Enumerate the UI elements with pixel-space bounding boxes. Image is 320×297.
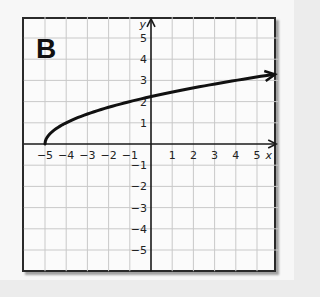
svg-text:4: 4 — [140, 53, 147, 66]
svg-text:−1: −1 — [131, 159, 147, 172]
svg-text:4: 4 — [232, 149, 239, 162]
svg-text:−4: −4 — [58, 149, 74, 162]
svg-text:−5: −5 — [131, 244, 147, 257]
svg-text:3: 3 — [211, 149, 218, 162]
tick-labels: −5−4−3−2−11234554321−1−2−3−4−5xy — [37, 18, 273, 257]
svg-text:−2: −2 — [100, 149, 116, 162]
svg-text:y: y — [138, 18, 146, 31]
axes — [24, 19, 276, 271]
svg-text:−5: −5 — [37, 149, 53, 162]
svg-text:−3: −3 — [79, 149, 95, 162]
svg-text:2: 2 — [190, 149, 197, 162]
svg-text:−4: −4 — [131, 223, 147, 236]
function-curve — [45, 74, 273, 144]
svg-text:−2: −2 — [131, 180, 147, 193]
svg-text:1: 1 — [140, 117, 147, 130]
svg-text:3: 3 — [140, 74, 147, 87]
svg-text:x: x — [264, 149, 272, 162]
svg-text:1: 1 — [169, 149, 176, 162]
svg-text:5: 5 — [140, 32, 147, 45]
panel-label: B — [36, 33, 56, 65]
svg-text:−3: −3 — [131, 202, 147, 215]
svg-text:5: 5 — [254, 149, 261, 162]
